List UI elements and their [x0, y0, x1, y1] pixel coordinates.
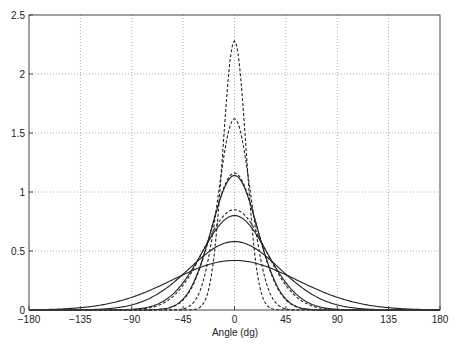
y-tick-label: 1.5: [11, 128, 25, 139]
y-tick-label: 1: [19, 187, 25, 198]
chart: 00.511.522.5 −180−135−90−4504590135180 A…: [0, 0, 461, 349]
x-tick-label: 135: [380, 314, 397, 325]
y-tick-label: 2.5: [11, 10, 25, 21]
x-tick-label: 45: [280, 314, 292, 325]
x-tick-label: −45: [175, 314, 192, 325]
x-tick-label: −135: [69, 314, 92, 325]
x-tick-label: 0: [232, 314, 238, 325]
curve-solid-2: [29, 242, 440, 310]
x-axis-label: Angle (dg): [212, 327, 258, 338]
y-axis-ticks: 00.511.522.5: [11, 10, 33, 316]
x-tick-label: −90: [123, 314, 140, 325]
curve-solid-3: [29, 216, 440, 310]
x-tick-label: 90: [332, 314, 344, 325]
x-tick-label: 180: [432, 314, 449, 325]
x-axis-ticks: −180−135−90−4504590135180: [18, 306, 449, 325]
y-tick-label: 2: [19, 69, 25, 80]
y-tick-label: 0.5: [11, 246, 25, 257]
grid-lines: [29, 15, 440, 310]
x-tick-label: −180: [18, 314, 41, 325]
